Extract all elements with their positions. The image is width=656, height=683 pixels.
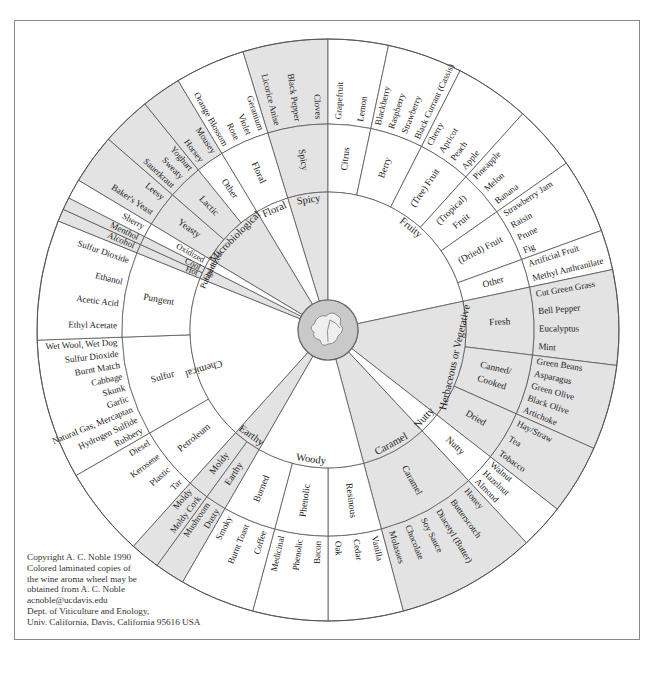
copyright-email: acnoble@ucdavis.edu	[27, 595, 200, 606]
tier3-label: Cloves	[312, 94, 323, 120]
copyright-line: Dept. of Viticulture and Enology,	[27, 606, 200, 617]
copyright-line: the wine aroma wheel may be	[27, 574, 200, 585]
tier3-label: Eucalyptus	[539, 324, 580, 334]
copyright-line: obtained from A. C. Noble	[27, 584, 200, 595]
copyright-line: Colored laminated copies of	[27, 563, 200, 574]
tier3-label: Ethyl Acetate	[68, 320, 117, 331]
copyright-notice: Copyright A. C. Noble 1990 Colored lamin…	[27, 552, 200, 628]
tier3-label: Bacon	[312, 540, 323, 564]
tier3-label: Mint	[538, 341, 557, 352]
tier3-label: Grapefruit	[333, 81, 345, 119]
copyright-line: Univ. California, Davis, California 9561…	[27, 617, 200, 628]
copyright-line: Copyright A. C. Noble 1990	[27, 552, 200, 563]
tier3-label: Oak	[333, 541, 344, 557]
tier2-label: Fresh	[489, 316, 511, 327]
